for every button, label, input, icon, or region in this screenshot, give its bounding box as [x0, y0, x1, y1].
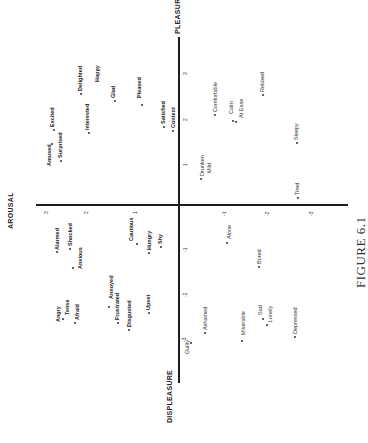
data-point-marker — [266, 324, 268, 326]
tick-label-arousal: -1 — [221, 212, 227, 216]
data-point-marker — [141, 104, 143, 106]
emotion-label: Happy — [94, 65, 100, 82]
data-point-marker — [214, 114, 216, 116]
emotion-label: Sad — [257, 305, 263, 315]
tick-label-pleasure: 1 — [182, 163, 188, 166]
data-point-marker — [128, 329, 130, 331]
data-point-marker — [136, 243, 138, 245]
tick-label-pleasure: -2 — [182, 293, 188, 297]
data-point-marker — [62, 318, 64, 320]
tick-label-pleasure: 3 — [182, 72, 188, 75]
emotion-label: Alarmed — [54, 228, 60, 250]
data-point-marker — [72, 267, 74, 269]
data-point-marker — [232, 120, 234, 122]
tick-label-pleasure: 2 — [182, 118, 188, 121]
tick-label-arousal: -2 — [264, 212, 270, 216]
emotion-label: Upset — [145, 295, 151, 310]
emotion-label: Interested — [84, 104, 90, 130]
emotion-label: Surprised — [57, 132, 63, 158]
emotion-label: Anxious — [77, 247, 83, 269]
data-point-marker — [172, 130, 174, 132]
emotion-label: Pleased — [136, 77, 142, 98]
emotion-label: Comfortable — [212, 82, 218, 112]
tick-label-arousal: 1 — [132, 211, 138, 214]
emotion-label: Frustrated — [114, 293, 120, 320]
data-point-marker — [88, 132, 90, 134]
emotion-label: Shocked — [67, 223, 73, 246]
emotion-label: Hungry — [146, 231, 152, 250]
data-point-marker — [60, 160, 62, 162]
emotion-label: Drunken — [199, 155, 205, 176]
tick-label-arousal: -3 — [308, 212, 314, 216]
emotion-label: Tense — [64, 300, 70, 316]
tick-label-pleasure: -1 — [182, 248, 188, 252]
emotion-label: Lonely — [267, 306, 273, 322]
emotion-label: Delighted — [77, 66, 83, 91]
emotion-label: Satisfied — [160, 101, 166, 124]
pleasure-axis-line — [178, 37, 180, 383]
data-point-marker — [297, 197, 299, 199]
data-point-marker — [258, 266, 260, 268]
data-point-marker — [148, 312, 150, 314]
data-point-marker — [80, 93, 82, 95]
emotion-label: Ashamed — [202, 307, 208, 330]
tick-label-arousal: 3 — [43, 211, 49, 214]
emotion-label: Alone — [226, 225, 232, 239]
circumplex-figure: AROUSAL PLEASURE DISPLEASURE 321-1-2-332… — [0, 0, 368, 443]
data-point-marker — [53, 129, 55, 131]
data-point-marker — [262, 318, 264, 320]
data-point-marker — [56, 251, 58, 253]
data-point-marker — [160, 246, 162, 248]
tick-label-arousal: 2 — [83, 211, 89, 214]
emotion-label: Amused — [46, 144, 52, 166]
data-point-marker — [69, 248, 71, 250]
figure-caption: FIGURE 6.1 — [353, 217, 368, 288]
data-point-marker — [226, 242, 228, 244]
data-point-marker — [204, 332, 206, 334]
emotion-label: Guilty — [184, 340, 190, 354]
emotion-label: Afraid — [74, 304, 80, 320]
data-point-marker — [262, 94, 264, 96]
emotion-label: Shy — [157, 234, 163, 244]
data-point-marker — [235, 121, 237, 123]
emotion-label: Mild — [206, 163, 212, 173]
emotion-label: Depressed — [292, 307, 298, 334]
data-point-marker — [74, 322, 76, 324]
emotion-label: Sleepy — [293, 123, 299, 140]
emotion-label: Angry — [55, 306, 61, 322]
displeasure-axis-title: DISPLEASURE — [166, 370, 173, 423]
arousal-axis-line — [36, 204, 348, 206]
data-point-marker — [296, 142, 298, 144]
data-point-marker — [163, 126, 165, 128]
data-point-marker — [190, 342, 192, 344]
data-point-marker — [148, 252, 150, 254]
emotion-label: Glad — [110, 86, 116, 98]
data-point-marker — [294, 336, 296, 338]
emotion-label: Disgusted — [126, 300, 132, 327]
pleasure-axis-title: PLEASURE — [174, 0, 181, 34]
data-point-marker — [114, 100, 116, 102]
emotion-label: Miserable — [240, 311, 246, 335]
data-point-marker — [200, 178, 202, 180]
emotion-label: At Ease — [238, 99, 244, 118]
data-point-marker — [117, 322, 119, 324]
emotion-label: Relaxed — [259, 72, 265, 92]
emotion-label: Bored — [256, 249, 262, 264]
emotion-label: Excited — [49, 107, 55, 127]
emotion-label: Cautious — [128, 217, 134, 241]
data-point-marker — [241, 340, 243, 342]
data-point-marker — [108, 306, 110, 308]
emotion-label: Tired — [294, 183, 300, 195]
emotion-label: Calm — [228, 101, 234, 114]
arousal-axis-title: AROUSAL — [7, 192, 14, 229]
emotion-label: Content — [170, 107, 176, 128]
